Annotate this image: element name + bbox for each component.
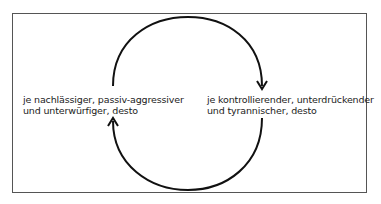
node-right-line-2: und tyrannischer, desto xyxy=(207,105,374,116)
node-right-label: je kontrollierender, unterdrückender und… xyxy=(207,94,374,116)
node-right-line-1: je kontrollierender, unterdrückender xyxy=(207,94,374,105)
top-arc-arrow xyxy=(113,17,262,86)
node-left-line-2: und unterwürfiger, desto xyxy=(23,105,184,116)
bottom-arc-arrow xyxy=(113,118,262,190)
node-left-label: je nachlässiger, passiv-aggressiver und … xyxy=(23,94,184,116)
node-left-line-1: je nachlässiger, passiv-aggressiver xyxy=(23,94,184,105)
